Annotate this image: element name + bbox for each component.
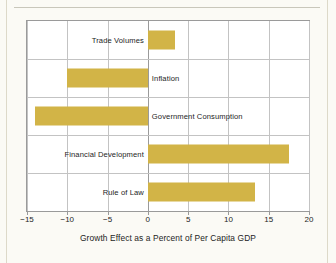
bar-category-label: Inflation <box>152 74 180 83</box>
x-axis-title: Growth Effect as a Percent of Per Capita… <box>0 233 336 243</box>
chart-row: Trade Volumes <box>27 21 309 59</box>
bar <box>35 107 148 126</box>
chart-row: Rule of Law <box>27 173 309 211</box>
plot-area: Trade VolumesInflationGovernment Consump… <box>26 20 310 212</box>
x-tick-label: −15 <box>20 215 34 224</box>
bar-category-label: Financial Development <box>65 150 144 159</box>
bar-category-label: Government Consumption <box>152 112 243 121</box>
chart-row: Government Consumption <box>27 97 309 135</box>
bar-chart: Trade VolumesInflationGovernment Consump… <box>0 0 336 263</box>
bar <box>148 145 289 164</box>
x-tick-label: −5 <box>103 215 112 224</box>
bar-category-label: Trade Volumes <box>92 36 144 45</box>
bar <box>148 31 175 50</box>
bar-category-label: Rule of Law <box>103 188 144 197</box>
chart-row: Inflation <box>27 59 309 97</box>
bar <box>148 183 255 202</box>
x-tick-label: 15 <box>264 215 273 224</box>
x-tick-label: 20 <box>305 215 314 224</box>
gridline-vertical <box>309 21 310 211</box>
chart-row: Financial Development <box>27 135 309 173</box>
x-tick-label: 5 <box>186 215 190 224</box>
x-tick-label: 10 <box>224 215 233 224</box>
page-frame: Trade VolumesInflationGovernment Consump… <box>0 0 336 263</box>
bar <box>67 69 148 88</box>
x-tick-label: −10 <box>60 215 74 224</box>
x-tick-label: 0 <box>146 215 150 224</box>
